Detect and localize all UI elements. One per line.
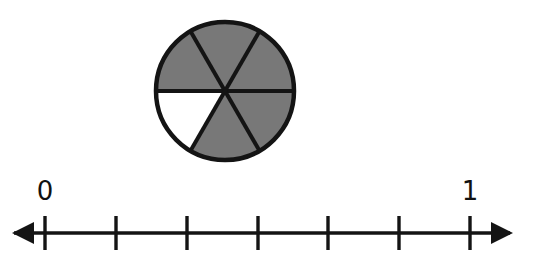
number-line-label-start: 0 xyxy=(37,176,54,206)
circle-fraction-figure xyxy=(0,0,535,175)
circle-fraction-svg xyxy=(0,0,535,175)
number-line-svg: 0 1 xyxy=(0,168,535,275)
number-line-figure: 0 1 xyxy=(0,168,535,275)
worksheet-canvas: 0 1 xyxy=(0,0,535,275)
number-line-label-end: 1 xyxy=(462,176,479,206)
number-line-right-arrowhead xyxy=(491,222,513,244)
number-line-left-arrowhead xyxy=(12,222,34,244)
